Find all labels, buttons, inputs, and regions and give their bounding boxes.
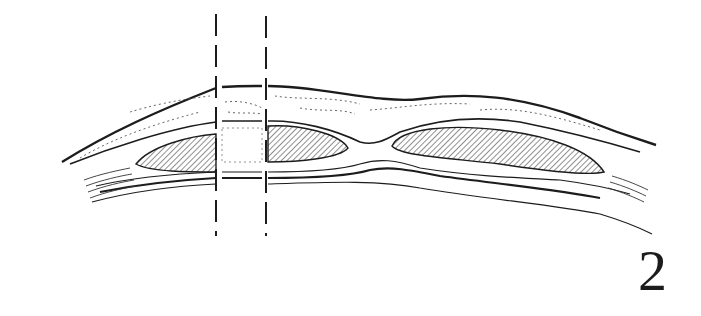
left-muscle-belly [136, 134, 216, 172]
right-fiber-striations [608, 176, 648, 202]
figure-number-label: 2 [638, 242, 667, 300]
deep-surface-line [92, 182, 652, 234]
deep-fascia-line-2 [100, 168, 600, 198]
middle-muscle-belly [268, 126, 348, 162]
cut-region-fat [222, 128, 262, 162]
anatomical-cross-section-illustration [0, 0, 701, 316]
